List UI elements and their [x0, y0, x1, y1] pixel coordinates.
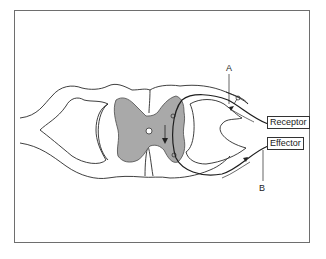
- reflex-arc-diagram: A B: [0, 0, 326, 259]
- central-canal: [146, 128, 152, 134]
- effector-label: Effector: [267, 137, 304, 150]
- dorsal-fissure: [149, 90, 150, 113]
- label-b: B: [259, 183, 265, 193]
- neuron-pathway: [173, 95, 268, 175]
- dorsal-root-line: [232, 110, 254, 122]
- receptor-label: Receptor: [267, 116, 310, 129]
- ventral-root-line: [222, 162, 250, 178]
- right-white-matter-inner: [186, 100, 246, 165]
- label-a: A: [226, 63, 232, 73]
